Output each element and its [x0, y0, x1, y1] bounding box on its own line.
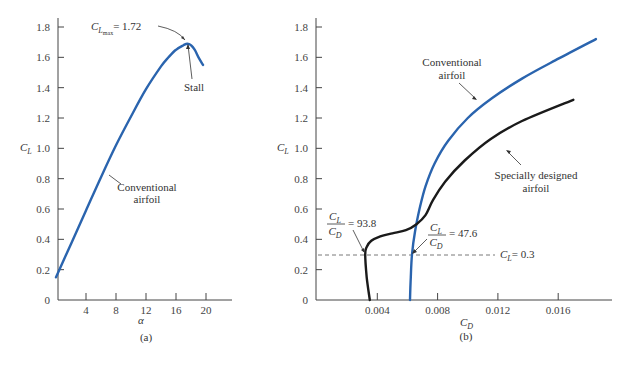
chart-b-specially-designed-curve	[365, 100, 573, 300]
chart-b-special-label-line1: Specially designed	[495, 169, 578, 181]
chart-b-x-axis-ticks: 0.0040.0080.0120.016	[365, 293, 571, 316]
chart-a-ylabel: CL	[20, 141, 32, 156]
tick-label: 0.6	[294, 203, 308, 215]
tick-label: 1.6	[36, 51, 50, 63]
chart-a-stall-label: Stall	[184, 81, 204, 93]
chart-a-conventional-label-line1: Conventional	[117, 181, 176, 193]
chart-b-conventional-arrowhead-icon	[472, 96, 477, 100]
chart-a-caption: (a)	[140, 331, 153, 344]
chart-b-caption: (b)	[460, 330, 473, 343]
tick-label: 1.4	[36, 82, 50, 94]
chart-b-cl-0.3-label: CL= 0.3	[500, 248, 535, 263]
tick-label: 1.2	[294, 112, 308, 124]
chart-a-stall-arrow	[188, 45, 192, 79]
chart-a-conventional-curve	[56, 44, 203, 278]
chart-b-ratio-47.6-annotation: CL CD = 47.6	[412, 221, 478, 254]
chart-b-conventional-arrow	[459, 83, 476, 99]
chart-a-x-axis-ticks: 48121620	[83, 293, 212, 316]
tick-label: 16	[171, 304, 183, 316]
chart-a: 00.20.40.60.81.01.21.41.61.8 48121620 CL…	[20, 18, 232, 344]
chart-b-ylabel: CL	[277, 141, 289, 156]
tick-label: 0	[303, 294, 309, 306]
chart-a-xlabel: α	[138, 314, 144, 326]
tick-label: 1.4	[294, 82, 308, 94]
tick-label: 1.0	[36, 142, 50, 154]
tick-label: 1.0	[294, 142, 308, 154]
chart-b-ratio-93.8-arrowhead-icon	[361, 248, 365, 253]
tick-label: 0.012	[486, 304, 511, 316]
tick-label: 20	[201, 304, 213, 316]
chart-a-clmax-arrow	[158, 26, 185, 40]
figure-canvas: 00.20.40.60.81.01.21.41.61.8 48121620 CL…	[0, 0, 632, 365]
chart-b-conventional-label-line2: airfoil	[439, 69, 466, 81]
svg-text:CD: CD	[328, 225, 341, 240]
chart-b: 00.20.40.60.81.01.21.41.61.8 0.0040.0080…	[277, 18, 612, 343]
chart-b-special-label-line2: airfoil	[523, 182, 550, 194]
chart-b-special-arrowhead-icon	[506, 150, 511, 154]
chart-a-conventional-label-line2: airfoil	[134, 193, 161, 205]
tick-label: 0.008	[425, 304, 450, 316]
tick-label: 1.8	[36, 21, 50, 33]
tick-label: 0.8	[36, 173, 50, 185]
chart-b-y-axis-ticks: 00.20.40.60.81.01.21.41.61.8	[294, 21, 322, 306]
tick-label: 0.8	[294, 173, 308, 185]
chart-b-conventional-label-line1: Conventional	[422, 56, 481, 68]
tick-label: 0.016	[546, 304, 571, 316]
tick-label: 4	[83, 304, 89, 316]
chart-b-ratio-93.8-arrow	[353, 230, 364, 252]
chart-a-y-axis-ticks: 00.20.40.60.81.01.21.41.61.8	[36, 21, 64, 306]
chart-b-xlabel: CD	[460, 316, 473, 331]
svg-text:CD: CD	[429, 236, 442, 251]
tick-label: 8	[113, 304, 119, 316]
svg-text:= 93.8: = 93.8	[348, 217, 377, 229]
tick-label: 0.2	[294, 264, 308, 276]
chart-a-clmax-annotation: CLmax= 1.72	[91, 20, 141, 36]
tick-label: 0.6	[36, 203, 50, 215]
chart-b-ratio-93.8-annotation: CL CD = 93.8	[327, 210, 377, 253]
svg-text:CL: CL	[430, 221, 442, 236]
tick-label: 0.004	[365, 304, 390, 316]
tick-label: 1.8	[294, 21, 308, 33]
svg-text:= 47.6: = 47.6	[449, 227, 478, 239]
svg-text:CL: CL	[329, 210, 341, 225]
tick-label: 0.4	[294, 233, 308, 245]
tick-label: 1.6	[294, 51, 308, 63]
tick-label: 1.2	[36, 112, 50, 124]
tick-label: 0.4	[36, 233, 50, 245]
tick-label: 0.2	[36, 264, 50, 276]
tick-label: 0	[45, 294, 51, 306]
